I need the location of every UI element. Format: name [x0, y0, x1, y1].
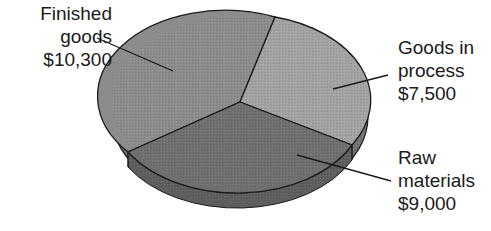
- label-raw-materials: Raw materials $9,000: [398, 146, 475, 215]
- label-goods-in-process-line1: Goods in: [398, 36, 474, 59]
- label-goods-in-process-value: $7,500: [398, 82, 474, 105]
- label-raw-materials-line1: Raw: [398, 146, 475, 169]
- label-finished-goods-value: $10,300: [2, 48, 112, 71]
- label-goods-in-process: Goods in process $7,500: [398, 36, 474, 105]
- label-raw-materials-value: $9,000: [398, 192, 475, 215]
- label-finished-goods: Finished goods $10,300: [2, 2, 112, 71]
- label-raw-materials-line2: materials: [398, 169, 475, 192]
- label-goods-in-process-line2: process: [398, 59, 474, 82]
- label-finished-goods-line2: goods: [2, 25, 112, 48]
- label-finished-goods-line1: Finished: [2, 2, 112, 25]
